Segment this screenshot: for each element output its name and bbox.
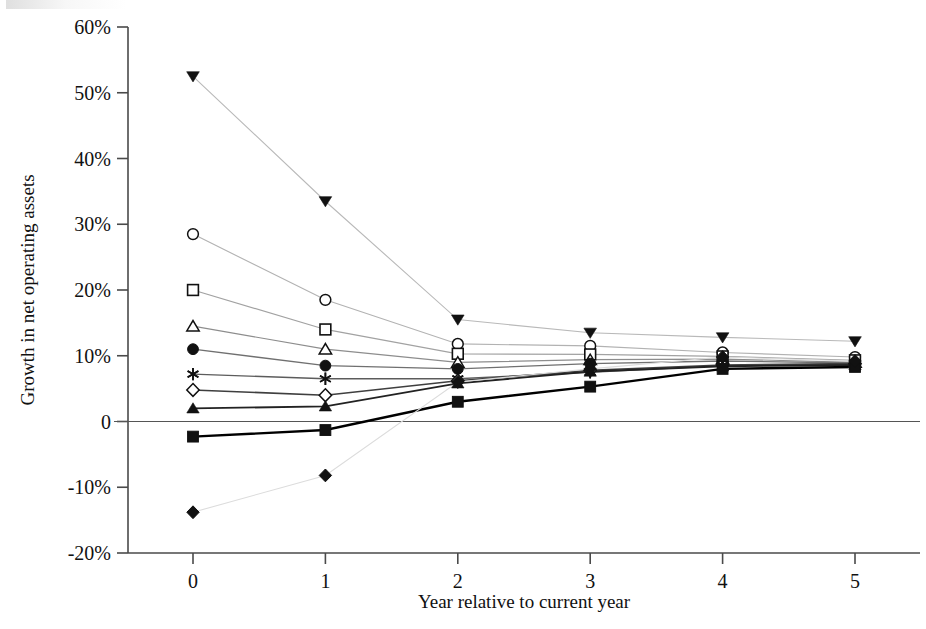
y-axis-title: Growth in net operating assets	[17, 174, 38, 405]
data-series-group	[187, 72, 862, 519]
series-decile-1	[193, 357, 855, 512]
series-decile-10	[193, 76, 855, 341]
growth-in-net-operating-assets-line-chart: 60%50%40%30%20%10%0-10%-20% 012345 Year …	[0, 0, 926, 629]
y-tick-label: 40%	[74, 148, 111, 170]
marker-open-triangle-up	[187, 321, 199, 331]
x-axis-title: Year relative to current year	[418, 591, 631, 612]
series-line	[193, 76, 855, 341]
x-tick-label: 1	[320, 570, 330, 592]
marker-filled-triangle-down	[849, 337, 862, 347]
y-tick-label: -10%	[68, 476, 111, 498]
series-markers-decile-10	[187, 72, 862, 347]
x-tick-label: 4	[718, 570, 728, 592]
marker-open-circle	[320, 294, 331, 305]
x-tick-label: 2	[453, 570, 463, 592]
x-tick-label: 5	[850, 570, 860, 592]
marker-filled-square	[585, 381, 596, 392]
y-tick-labels: 60%50%40%30%20%10%0-10%-20%	[68, 16, 111, 564]
y-tick-label: 50%	[74, 82, 111, 104]
series-markers-decile-6	[188, 344, 861, 375]
series-decile-3	[193, 365, 855, 408]
marker-open-square	[320, 324, 331, 335]
axes-group	[114, 27, 920, 564]
marker-filled-square	[188, 431, 199, 442]
marker-filled-circle	[188, 344, 199, 355]
x-tick-labels: 012345	[188, 570, 860, 592]
x-tick-label: 3	[585, 570, 595, 592]
series-decile-8	[193, 290, 855, 360]
marker-open-diamond	[319, 389, 331, 402]
x-tick-label: 0	[188, 570, 198, 592]
y-tick-label: 30%	[74, 213, 111, 235]
chart-container: 60%50%40%30%20%10%0-10%-20% 012345 Year …	[0, 0, 926, 629]
series-line	[193, 290, 855, 360]
marker-open-square	[188, 285, 199, 296]
marker-filled-diamond	[319, 469, 331, 482]
marker-filled-square	[320, 425, 331, 436]
marker-filled-diamond	[187, 506, 199, 519]
marker-filled-square	[717, 364, 728, 375]
series-line	[193, 357, 855, 512]
scan-artifact	[6, 0, 126, 9]
series-line	[193, 365, 855, 408]
y-tick-label: 0	[101, 411, 111, 433]
y-tick-label: -20%	[68, 542, 111, 564]
marker-filled-circle	[320, 360, 331, 371]
y-tick-label: 60%	[74, 16, 111, 38]
marker-open-circle	[188, 229, 199, 240]
y-tick-label: 20%	[74, 279, 111, 301]
y-tick-label: 10%	[74, 345, 111, 367]
series-markers-decile-2	[188, 362, 861, 442]
marker-open-diamond	[187, 384, 199, 397]
marker-filled-square	[452, 396, 463, 407]
